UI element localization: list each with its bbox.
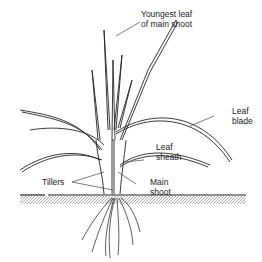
leader-lines	[72, 22, 214, 190]
label-youngest-leaf: Youngest leaf of main shoot	[141, 9, 192, 29]
shoots	[20, 20, 232, 194]
label-youngest-leaf-line2: of main shoot	[141, 19, 192, 29]
grass-plant-drawing	[0, 0, 262, 262]
label-main-shoot-line1: Main	[150, 177, 171, 187]
label-leaf-sheath-line1: Leaf	[156, 142, 182, 152]
label-youngest-leaf-line1: Youngest leaf	[141, 9, 192, 19]
soil-surface	[20, 195, 246, 204]
label-leaf-blade-line2: blade	[232, 116, 253, 126]
label-tillers: Tillers	[42, 177, 64, 187]
label-main-shoot-line2: shoot	[150, 187, 171, 197]
roots	[82, 198, 140, 258]
label-leaf-sheath: Leaf sheath	[156, 142, 182, 162]
label-leaf-blade-line1: Leaf	[232, 106, 253, 116]
label-leaf-sheath-line2: sheath	[156, 152, 182, 162]
label-leaf-blade: Leaf blade	[232, 106, 253, 126]
label-main-shoot: Main shoot	[150, 177, 171, 197]
